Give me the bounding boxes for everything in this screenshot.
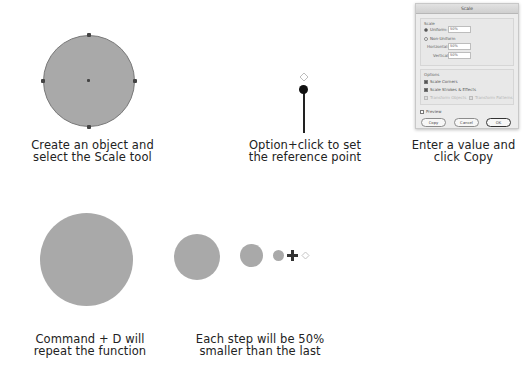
uniform-field[interactable]: 50% xyxy=(448,26,471,33)
scale-corners-label: Scale Corners xyxy=(430,79,458,84)
anchor-point-bottom[interactable] xyxy=(87,125,91,129)
scale-strokes-label: Scale Strokes & Effects xyxy=(430,87,476,92)
scale-dialog: Scale Scale Uniform: 50% Non-Uniform Hor… xyxy=(415,3,519,129)
caption-step-4: Command + D will repeat the function xyxy=(20,333,160,357)
caption-line: the reference point xyxy=(225,151,385,163)
checkbox-icon xyxy=(420,110,424,114)
preview-label: Preview xyxy=(426,109,442,114)
checkbox-icon xyxy=(469,96,473,100)
cancel-button[interactable]: Cancel xyxy=(454,118,479,127)
circle-original[interactable] xyxy=(40,213,133,306)
transform-patterns-label: Transform Patterns xyxy=(475,95,513,100)
checkbox-icon xyxy=(424,80,428,84)
transform-objects-checkbox: Transform Objects xyxy=(424,95,466,100)
transform-objects-label: Transform Objects xyxy=(430,95,466,100)
scale-section-label: Scale xyxy=(424,21,435,26)
scale-section: Scale Uniform: 50% Non-Uniform Horizonta… xyxy=(420,18,514,66)
anchor-point-left[interactable] xyxy=(41,79,45,83)
reference-point-crosshair-icon xyxy=(299,72,309,82)
caption-line: repeat the function xyxy=(20,345,160,357)
reference-point-handle[interactable] xyxy=(299,85,308,94)
caption-step-3: Enter a value and click Copy xyxy=(400,139,527,163)
transform-patterns-checkbox: Transform Patterns xyxy=(469,95,513,100)
horizontal-label: Horizontal: xyxy=(427,44,449,49)
caption-step-2: Option+click to set the reference point xyxy=(225,139,385,163)
caption-step-5: Each step will be 50% smaller than the l… xyxy=(180,333,340,357)
uniform-label: Uniform: xyxy=(430,27,447,32)
vertical-label: Vertical: xyxy=(433,53,449,58)
options-section: Options Scale Corners Scale Strokes & Ef… xyxy=(420,69,514,105)
non-uniform-radio[interactable]: Non-Uniform xyxy=(424,36,455,41)
uniform-radio[interactable]: Uniform: xyxy=(424,27,447,32)
caption-line: select the Scale tool xyxy=(20,151,165,163)
horizontal-field[interactable]: 50% xyxy=(448,43,471,50)
reference-point-stem xyxy=(303,90,305,133)
radio-icon xyxy=(424,37,428,41)
scale-cursor-plus-icon xyxy=(287,250,298,261)
caption-line: smaller than the last xyxy=(180,345,340,357)
vertical-field[interactable]: 50% xyxy=(448,52,471,59)
caption-line: click Copy xyxy=(400,151,527,163)
circle-copy-3[interactable] xyxy=(273,250,284,261)
non-uniform-label: Non-Uniform xyxy=(430,36,455,41)
preview-checkbox[interactable]: Preview xyxy=(420,109,442,114)
copy-button[interactable]: Copy xyxy=(421,118,446,127)
reference-point-crosshair-icon xyxy=(301,251,310,260)
circle-copy-2[interactable] xyxy=(240,244,263,267)
center-point xyxy=(87,79,90,82)
dialog-title: Scale xyxy=(416,4,518,14)
anchor-point-right[interactable] xyxy=(133,79,137,83)
scale-corners-checkbox[interactable]: Scale Corners xyxy=(424,79,458,84)
anchor-point-top[interactable] xyxy=(87,33,91,37)
caption-step-1: Create an object and select the Scale to… xyxy=(20,139,165,163)
checkbox-icon xyxy=(424,96,428,100)
checkbox-icon xyxy=(424,88,428,92)
scale-strokes-checkbox[interactable]: Scale Strokes & Effects xyxy=(424,87,476,92)
radio-icon xyxy=(424,28,428,32)
circle-copy-1[interactable] xyxy=(174,234,220,280)
options-section-label: Options xyxy=(424,72,439,77)
ok-button[interactable]: OK xyxy=(486,118,511,127)
